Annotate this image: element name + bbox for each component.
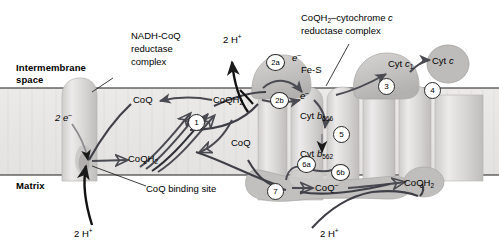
- step-number-3: 3: [378, 78, 395, 95]
- coqh2-label-upper-mid: CoQH2: [213, 94, 243, 105]
- fe-s-label: Fe-S: [301, 64, 322, 75]
- coq-label-upper-left: CoQ: [133, 94, 153, 105]
- figure-canvas: Intermembrane space Matrix NADH-CoQ redu…: [0, 0, 499, 247]
- step-number-2a: 2a: [266, 54, 285, 71]
- step-number-1: 1: [188, 114, 205, 131]
- diagram-svg: [0, 0, 499, 247]
- leader-line-right-complex: [326, 44, 349, 86]
- step-number-2b: 2b: [270, 92, 289, 109]
- two-protons-top-label: 2 H+: [223, 34, 242, 45]
- cyt-c-label: Cyt c: [432, 55, 454, 66]
- coq-radical-label: CoQ–: [315, 182, 338, 193]
- coq-label-mid-right: CoQ: [231, 137, 251, 148]
- two-protons-bottom-left-label: 2 H+: [74, 228, 93, 239]
- two-protons-bottom-right-label: 2 H+: [320, 228, 339, 239]
- cyt-b566-label: Cyt b566: [300, 110, 333, 121]
- electron-label-2b: e–: [300, 90, 309, 101]
- intermembrane-space-label-2: space: [16, 74, 43, 85]
- electron-label-2a: e–: [292, 52, 301, 63]
- two-electrons-label: 2 e–: [55, 112, 72, 123]
- step-number-7: 7: [267, 183, 284, 200]
- intermembrane-space-label: Intermembrane: [16, 62, 86, 73]
- arrow-to-coqh2: [92, 160, 127, 161]
- coqh2-label-lower-left: CoQH2: [128, 153, 158, 164]
- step-number-6a: 6a: [297, 156, 316, 173]
- matrix-label: Matrix: [16, 180, 45, 191]
- coqh2-cyt-c-title-line2: reductase complex: [301, 25, 381, 36]
- step-number-6b: 6b: [331, 164, 350, 181]
- nadh-coq-title-line1: NADH-CoQ: [131, 30, 181, 41]
- nadh-coq-title-line3: complex: [131, 56, 166, 67]
- nadh-coq-title-line2: reductase: [131, 43, 173, 54]
- step-number-5: 5: [333, 126, 350, 143]
- coq-binding-site-label: CoQ binding site: [146, 183, 216, 194]
- coqh2-cyt-c-title-line1: CoQH2–cytochrome c: [301, 12, 393, 23]
- step-number-4: 4: [424, 82, 441, 99]
- cyt-c1-label: Cyt c1: [388, 58, 413, 69]
- coqh2-label-bottom-right: CoQH2: [404, 177, 434, 188]
- nadh-coq-reductase-complex: [62, 78, 97, 181]
